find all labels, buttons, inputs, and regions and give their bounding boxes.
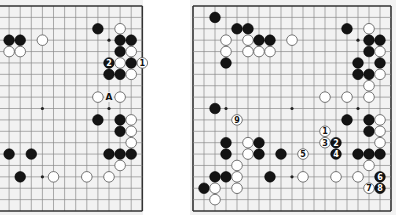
white-stone	[243, 35, 254, 46]
white-stone	[375, 115, 386, 126]
white-stone	[126, 115, 137, 126]
star-point	[41, 175, 44, 178]
white-stone	[126, 137, 137, 148]
white-stone	[126, 69, 137, 80]
black-stone	[104, 69, 115, 80]
white-stone	[375, 46, 386, 57]
move-number-label: 8	[377, 184, 383, 193]
go-diagrams: A21 913254678	[0, 0, 401, 223]
white-stone	[254, 46, 265, 57]
black-stone	[353, 58, 364, 69]
black-stone	[93, 115, 104, 126]
black-stone	[115, 69, 126, 80]
black-stone	[276, 149, 287, 160]
white-stone	[364, 23, 375, 34]
white-stone	[243, 137, 254, 148]
white-stone	[353, 172, 364, 183]
black-stone	[221, 58, 232, 69]
star-point	[224, 107, 227, 110]
left-go-board-diagram: A21	[0, 0, 148, 215]
star-point	[41, 107, 44, 110]
white-stone	[243, 46, 254, 57]
white-stone	[221, 46, 232, 57]
black-stone	[115, 46, 126, 57]
white-stone	[375, 69, 386, 80]
white-stone	[210, 183, 221, 194]
black-stone	[126, 149, 137, 160]
point-mark-label: A	[106, 92, 113, 102]
black-stone	[342, 23, 353, 34]
black-stone	[254, 149, 265, 160]
white-stone	[104, 172, 115, 183]
white-stone	[37, 35, 48, 46]
black-stone	[364, 35, 375, 46]
star-point	[356, 107, 359, 110]
black-stone	[375, 58, 386, 69]
move-number-label: 5	[300, 150, 306, 159]
white-stone	[221, 35, 232, 46]
black-stone	[364, 126, 375, 137]
black-stone	[375, 149, 386, 160]
black-stone	[232, 23, 243, 34]
black-stone	[364, 149, 375, 160]
white-stone	[232, 183, 243, 194]
black-stone	[254, 35, 265, 46]
white-stone	[364, 160, 375, 171]
white-stone	[210, 194, 221, 205]
star-point	[356, 39, 359, 42]
white-stone	[320, 92, 331, 103]
star-point	[290, 175, 293, 178]
black-stone	[115, 35, 126, 46]
black-stone	[15, 172, 26, 183]
black-stone	[4, 35, 15, 46]
move-number-label: 1	[322, 127, 328, 136]
move-number-label: 1	[140, 59, 146, 68]
white-stone	[4, 46, 15, 57]
black-stone	[221, 149, 232, 160]
right-go-board-diagram: 913254678	[190, 0, 396, 215]
white-stone	[93, 92, 104, 103]
black-stone	[265, 35, 276, 46]
black-stone	[93, 23, 104, 34]
star-point	[107, 39, 110, 42]
white-stone	[115, 160, 126, 171]
white-stone	[82, 172, 93, 183]
move-number-label: 4	[333, 150, 339, 159]
star-point	[107, 107, 110, 110]
black-stone	[221, 172, 232, 183]
black-stone	[199, 183, 210, 194]
white-stone	[342, 92, 353, 103]
white-stone	[232, 172, 243, 183]
move-number-label: 6	[377, 173, 383, 182]
white-stone	[243, 149, 254, 160]
move-number-label: 9	[234, 116, 240, 125]
black-stone	[353, 149, 364, 160]
white-stone	[287, 35, 298, 46]
black-stone	[210, 172, 221, 183]
black-stone	[210, 103, 221, 114]
move-number-label: 3	[322, 139, 328, 148]
black-stone	[115, 149, 126, 160]
white-stone	[15, 46, 26, 57]
white-stone	[232, 160, 243, 171]
white-stone	[126, 46, 137, 57]
black-stone	[342, 115, 353, 126]
black-stone	[221, 137, 232, 148]
white-stone	[331, 172, 342, 183]
black-stone	[210, 12, 221, 23]
white-stone	[364, 92, 375, 103]
black-stone	[243, 23, 254, 34]
white-stone	[265, 46, 276, 57]
black-stone	[15, 35, 26, 46]
black-stone	[104, 149, 115, 160]
black-stone	[364, 69, 375, 80]
black-stone	[115, 126, 126, 137]
move-number-label: 2	[333, 139, 339, 148]
white-stone	[126, 126, 137, 137]
black-stone	[265, 172, 276, 183]
black-stone	[115, 115, 126, 126]
black-stone	[254, 137, 265, 148]
black-stone	[4, 149, 15, 160]
white-stone	[375, 137, 386, 148]
white-stone	[298, 172, 309, 183]
